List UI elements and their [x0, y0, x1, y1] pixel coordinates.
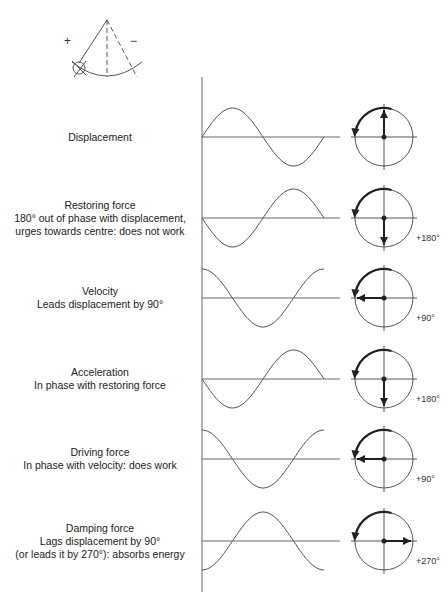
arrowhead-icon — [357, 455, 365, 463]
row-2 — [202, 265, 417, 331]
row-line: (or leads it by 270°): absorbs energy — [0, 548, 200, 561]
phase-label: +180° — [416, 394, 440, 404]
row-0 — [202, 104, 417, 170]
row-title: Driving force — [0, 446, 200, 459]
arrowhead-icon — [380, 398, 388, 406]
phase-label: +270° — [416, 556, 440, 566]
pendulum-icon — [72, 20, 142, 77]
row-1 — [202, 185, 417, 251]
row-title: Damping force — [0, 522, 200, 535]
arrowhead-icon — [380, 237, 388, 245]
minus-sign: − — [130, 34, 137, 48]
plus-sign: + — [64, 34, 71, 48]
arrowhead-icon — [403, 537, 411, 545]
row-description: VelocityLeads displacement by 90° — [0, 285, 200, 311]
row-description: Displacement — [0, 131, 200, 144]
row-title: Restoring force — [0, 199, 200, 212]
phase-label: +90° — [416, 313, 435, 323]
rotation-arrow — [355, 189, 391, 213]
row-description: Restoring force180° out of phase with di… — [0, 199, 200, 238]
rotation-arrow — [355, 108, 391, 132]
arrowhead-icon — [357, 294, 365, 302]
row-3 — [202, 346, 417, 412]
row-line: Leads displacement by 90° — [0, 298, 200, 311]
row-5 — [202, 508, 417, 574]
row-description: AccelerationIn phase with restoring forc… — [0, 366, 200, 392]
row-title: Velocity — [0, 285, 200, 298]
rotation-arrow — [355, 269, 391, 293]
arrowhead-icon — [380, 110, 388, 118]
row-line: In phase with restoring force — [0, 379, 200, 392]
row-description: Driving forceIn phase with velocity: doe… — [0, 446, 200, 472]
phasor-icon — [351, 426, 417, 492]
phasor-icon — [351, 265, 417, 331]
row-line: urges towards centre: does not work — [0, 225, 200, 238]
phasor-icon — [351, 104, 417, 170]
rotation-arrow — [355, 430, 391, 454]
row-line: Lags displacement by 90° — [0, 535, 200, 548]
rotation-arrow — [355, 512, 391, 536]
row-title: Acceleration — [0, 366, 200, 379]
phasor-icon — [351, 346, 417, 412]
phase-label: +180° — [416, 233, 440, 243]
row-line: 180° out of phase with displacement, — [0, 212, 200, 225]
phasor-icon — [351, 508, 417, 574]
row-description: Damping forceLags displacement by 90°(or… — [0, 522, 200, 561]
phasor-icon — [351, 185, 417, 251]
row-title: Displacement — [0, 131, 200, 144]
row-4 — [202, 426, 417, 492]
rotation-arrow — [355, 350, 391, 374]
phase-label: +90° — [416, 474, 435, 484]
row-line: In phase with velocity: does work — [0, 459, 200, 472]
